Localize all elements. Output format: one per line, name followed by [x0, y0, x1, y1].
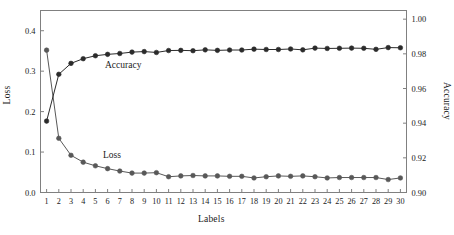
svg-text:13: 13	[189, 197, 197, 206]
svg-text:0.90: 0.90	[412, 189, 427, 198]
svg-text:11: 11	[165, 197, 173, 206]
svg-text:18: 18	[250, 197, 258, 206]
svg-text:28: 28	[372, 197, 380, 206]
y-axis-right-title: Accuracy	[442, 78, 452, 124]
svg-text:8: 8	[130, 197, 134, 206]
svg-text:30: 30	[396, 197, 404, 206]
svg-text:25: 25	[335, 197, 343, 206]
svg-text:6: 6	[106, 197, 110, 206]
svg-text:5: 5	[93, 197, 97, 206]
svg-text:0.2: 0.2	[25, 108, 35, 117]
svg-text:29: 29	[384, 197, 392, 206]
svg-text:0.0: 0.0	[25, 189, 35, 198]
svg-text:0.98: 0.98	[412, 50, 427, 59]
chart-plot-area: 0.00.10.20.30.4 0.900.920.940.960.981.00…	[0, 0, 454, 235]
svg-text:19: 19	[262, 197, 270, 206]
svg-text:24: 24	[323, 197, 331, 206]
series-annotation-accuracy: Accuracy	[105, 60, 141, 70]
svg-text:0.1: 0.1	[25, 148, 35, 157]
svg-text:23: 23	[311, 197, 319, 206]
svg-text:14: 14	[201, 197, 209, 206]
svg-text:9: 9	[142, 197, 146, 206]
svg-text:22: 22	[299, 197, 307, 206]
svg-text:0.4: 0.4	[25, 27, 36, 36]
svg-text:10: 10	[152, 197, 160, 206]
svg-text:15: 15	[213, 197, 221, 206]
svg-text:27: 27	[360, 197, 368, 206]
svg-text:12: 12	[177, 197, 185, 206]
svg-text:1.00: 1.00	[412, 15, 427, 24]
svg-text:26: 26	[348, 197, 356, 206]
svg-text:17: 17	[238, 197, 246, 206]
y-axis-left-title: Loss	[2, 75, 12, 115]
svg-text:0.92: 0.92	[412, 154, 427, 163]
svg-text:1: 1	[45, 197, 49, 206]
svg-text:21: 21	[287, 197, 295, 206]
svg-text:2: 2	[57, 197, 61, 206]
x-axis-title: Labels	[198, 214, 225, 224]
svg-text:7: 7	[118, 197, 122, 206]
svg-text:4: 4	[81, 197, 85, 206]
series-annotation-loss: Loss	[103, 150, 121, 160]
svg-text:20: 20	[274, 197, 282, 206]
svg-text:0.3: 0.3	[25, 67, 35, 76]
svg-text:16: 16	[226, 197, 234, 206]
svg-text:0.96: 0.96	[412, 85, 427, 94]
svg-text:0.94: 0.94	[412, 119, 427, 128]
svg-text:3: 3	[69, 197, 73, 206]
chart-figure: 0.00.10.20.30.4 0.900.920.940.960.981.00…	[0, 0, 454, 235]
